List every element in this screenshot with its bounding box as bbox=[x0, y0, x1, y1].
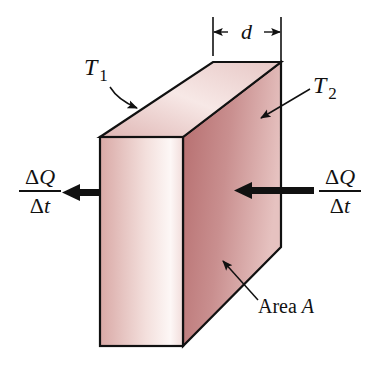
heat-rate-right-fraction: ΔQ Δt bbox=[319, 166, 361, 217]
fraction-bar bbox=[19, 190, 61, 192]
thickness-label: d bbox=[241, 21, 252, 43]
t1-symbol: T bbox=[84, 54, 97, 80]
area-prefix: Area bbox=[258, 295, 302, 317]
heat-rate-right-denominator: Δt bbox=[328, 195, 352, 217]
heat-flow-left-arrow bbox=[62, 184, 100, 201]
heat-rate-left-fraction: ΔQ Δt bbox=[19, 166, 61, 217]
t2-symbol: T bbox=[313, 72, 326, 98]
fraction-bar bbox=[319, 190, 361, 192]
t1-pointer-arrow bbox=[110, 87, 137, 108]
t2-subscript: 2 bbox=[328, 84, 337, 103]
area-label: Area A bbox=[258, 296, 314, 316]
heat-rate-left-denominator: Δt bbox=[28, 195, 52, 217]
t1-label: T1 bbox=[84, 55, 108, 79]
slab-front-face bbox=[100, 137, 183, 346]
heat-rate-right-numerator: ΔQ bbox=[323, 166, 357, 188]
t2-label: T2 bbox=[313, 73, 337, 97]
area-symbol: A bbox=[302, 295, 314, 317]
heat-rate-left-numerator: ΔQ bbox=[23, 166, 57, 188]
t1-subscript: 1 bbox=[99, 66, 108, 85]
